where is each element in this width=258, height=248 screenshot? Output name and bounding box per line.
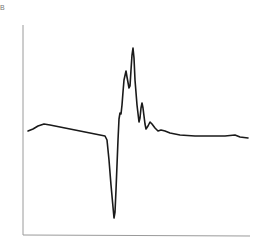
waveform-chart bbox=[0, 0, 258, 248]
waveform-line bbox=[28, 48, 248, 218]
x-axis bbox=[23, 235, 250, 236]
